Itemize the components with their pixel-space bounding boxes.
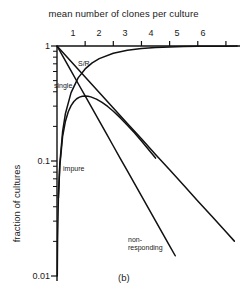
curve-non-responding (57, 46, 175, 256)
x-axis-ticks (85, 41, 226, 46)
plot-canvas (0, 0, 247, 303)
data-curves (57, 46, 237, 276)
curve-s-r (57, 46, 234, 241)
figure-panel-b: mean number of clones per culture fracti… (0, 0, 247, 303)
curve-single (58, 96, 155, 198)
y-axis-ticks (51, 46, 57, 276)
curve-impure (57, 46, 237, 276)
axes (57, 46, 240, 281)
